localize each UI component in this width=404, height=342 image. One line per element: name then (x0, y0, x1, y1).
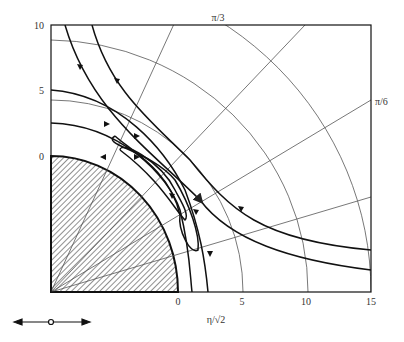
angle-label-pi6: π/6 (375, 96, 388, 107)
angle-label-pi3: π/3 (212, 12, 225, 23)
x-axis-label: η/√2 (207, 314, 226, 325)
x-tick-10: 10 (301, 296, 311, 307)
double-arrow-symbol (14, 319, 90, 325)
x-tick-15: 15 (366, 296, 376, 307)
y-tick-0: 0 (39, 151, 44, 162)
y-tick-5: 5 (39, 85, 44, 96)
y-tick-10: 10 (34, 20, 44, 31)
x-tick-0: 0 (176, 296, 181, 307)
phase-diagram: 10 5 0 0 5 10 15 π/3 π/6 η/√2 (0, 0, 404, 342)
x-tick-5: 5 (240, 296, 245, 307)
